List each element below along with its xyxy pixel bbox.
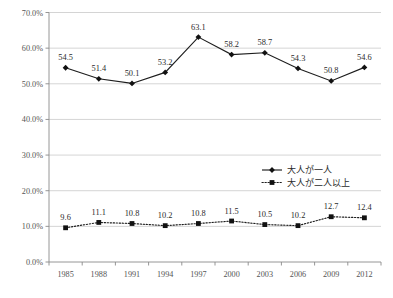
data-point-value-label: 50.1 bbox=[125, 69, 140, 78]
series-line-1 bbox=[66, 37, 365, 83]
legend-label-2[interactable]: 大人が二人以上 bbox=[287, 177, 350, 188]
data-point-marker bbox=[130, 221, 135, 226]
data-point-value-label: 12.7 bbox=[324, 202, 339, 211]
x-axis-tick-label: 2000 bbox=[223, 270, 239, 279]
x-axis-tick-label: 1994 bbox=[157, 270, 173, 279]
series-markers bbox=[63, 34, 368, 230]
data-point-value-label: 58.7 bbox=[257, 38, 272, 47]
data-point-value-label: 10.8 bbox=[125, 209, 140, 218]
x-axis-tick-label: 2012 bbox=[356, 270, 372, 279]
data-point-marker bbox=[163, 223, 168, 228]
data-point-value-label: 54.5 bbox=[58, 53, 73, 62]
y-axis-tick-label: 70.0% bbox=[22, 9, 43, 18]
data-point-marker bbox=[96, 220, 101, 225]
chart-legend[interactable]: 大人が一人大人が二人以上 bbox=[262, 164, 350, 188]
x-axis-tick-label: 2003 bbox=[257, 270, 273, 279]
gridlines bbox=[49, 13, 381, 227]
data-point-value-label: 58.2 bbox=[224, 40, 239, 49]
data-point-marker bbox=[63, 65, 69, 71]
data-point-marker bbox=[129, 81, 135, 87]
y-axis-tick-label: 40.0% bbox=[22, 115, 43, 124]
y-axis-tick-label: 10.0% bbox=[22, 222, 43, 231]
y-axis-tick-label: 30.0% bbox=[22, 151, 43, 160]
data-point-marker bbox=[96, 76, 102, 82]
x-axis-tick-label: 1988 bbox=[91, 270, 107, 279]
y-axis-tick-label: 0.0% bbox=[26, 258, 43, 267]
data-point-labels: 54.551.450.153.263.158.258.754.350.854.6… bbox=[58, 23, 372, 223]
data-point-marker bbox=[229, 52, 235, 58]
y-axis-tick-label: 60.0% bbox=[22, 44, 43, 53]
data-point-value-label: 50.8 bbox=[324, 66, 339, 75]
legend-marker bbox=[270, 180, 275, 185]
data-point-marker bbox=[295, 66, 301, 72]
data-point-value-label: 9.6 bbox=[60, 213, 70, 222]
x-axis-tick-label: 2006 bbox=[290, 270, 306, 279]
data-point-value-label: 11.5 bbox=[224, 207, 238, 216]
data-point-value-label: 51.4 bbox=[91, 64, 106, 73]
data-point-value-label: 54.3 bbox=[291, 54, 306, 63]
y-axis-tick-label: 20.0% bbox=[22, 187, 43, 196]
data-point-marker bbox=[262, 222, 267, 227]
data-point-marker bbox=[262, 50, 268, 56]
x-axis-tick-label: 1997 bbox=[190, 270, 206, 279]
x-axis: 1985198819911994199720002003200620092012 bbox=[49, 262, 381, 279]
data-point-marker bbox=[328, 78, 334, 84]
data-point-value-label: 63.1 bbox=[191, 23, 206, 32]
data-point-value-label: 54.6 bbox=[357, 53, 372, 62]
data-point-marker bbox=[63, 225, 68, 230]
legend-label-1[interactable]: 大人が一人 bbox=[287, 164, 332, 175]
data-point-value-label: 11.1 bbox=[92, 208, 106, 217]
chart-canvas: 0.0%10.0%20.0%30.0%40.0%50.0%60.0%70.0% … bbox=[0, 0, 393, 298]
data-point-marker bbox=[362, 64, 368, 70]
data-point-value-label: 10.2 bbox=[291, 211, 306, 220]
data-point-marker bbox=[362, 215, 367, 220]
line-chart: 0.0%10.0%20.0%30.0%40.0%50.0%60.0%70.0% … bbox=[0, 0, 393, 298]
series-lines bbox=[66, 37, 365, 228]
y-axis: 0.0%10.0%20.0%30.0%40.0%50.0%60.0%70.0% bbox=[22, 9, 49, 268]
data-point-value-label: 12.4 bbox=[357, 203, 372, 212]
data-point-marker bbox=[196, 221, 201, 226]
y-axis-tick-label: 50.0% bbox=[22, 80, 43, 89]
data-point-value-label: 10.8 bbox=[191, 209, 206, 218]
data-point-marker bbox=[329, 214, 334, 219]
x-axis-tick-label: 2009 bbox=[323, 270, 339, 279]
x-axis-tick-label: 1985 bbox=[57, 270, 73, 279]
data-point-value-label: 10.5 bbox=[257, 210, 272, 219]
data-point-marker bbox=[229, 219, 234, 224]
x-axis-tick-label: 1991 bbox=[124, 270, 140, 279]
data-point-value-label: 10.2 bbox=[158, 211, 173, 220]
data-point-value-label: 53.2 bbox=[158, 58, 173, 67]
legend-marker bbox=[269, 167, 275, 173]
data-point-marker bbox=[296, 223, 301, 228]
